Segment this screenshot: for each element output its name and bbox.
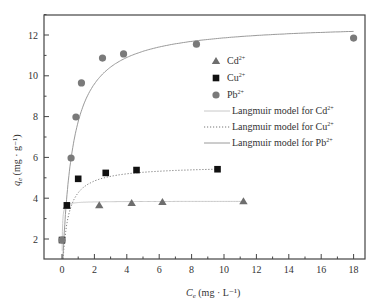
circle-marker <box>193 41 200 48</box>
y-tick-label: 10 <box>28 70 38 81</box>
square-marker <box>75 176 82 183</box>
legend-marker-swatch <box>212 91 219 98</box>
y-tick-label: 8 <box>33 111 38 122</box>
circle-marker <box>120 50 127 57</box>
circle-marker <box>72 113 79 120</box>
x-tick-label: 6 <box>157 264 162 275</box>
legend-label: Langmuir model for Cd2+ <box>232 105 334 116</box>
y-tick-label: 12 <box>28 30 38 41</box>
square-marker <box>133 167 140 174</box>
x-tick-label: 12 <box>251 264 261 275</box>
square-marker <box>102 170 109 177</box>
y-tick-label: 4 <box>33 193 38 204</box>
langmuir-isotherm-chart: 024681012141618 24681012 Ce (mg · L⁻¹) q… <box>0 0 378 306</box>
legend-label: Langmuir model for Pb2+ <box>232 137 333 148</box>
circle-marker <box>99 54 106 61</box>
x-tick-label: 0 <box>60 264 65 275</box>
x-tick-label: 2 <box>92 264 97 275</box>
x-tick-label: 8 <box>189 264 194 275</box>
x-tick-label: 16 <box>316 264 326 275</box>
x-tick-label: 14 <box>284 264 294 275</box>
x-tick-label: 10 <box>219 264 229 275</box>
square-marker <box>214 166 221 173</box>
circle-marker <box>350 34 357 41</box>
circle-marker <box>58 236 65 243</box>
background <box>0 0 378 306</box>
legend-marker-swatch <box>213 75 220 82</box>
square-marker <box>64 202 71 209</box>
x-tick-label: 4 <box>124 264 129 275</box>
y-tick-label: 2 <box>33 234 38 245</box>
circle-marker <box>67 154 74 161</box>
y-tick-label: 6 <box>33 152 38 163</box>
legend-label: Langmuir model for Cu2+ <box>232 121 334 132</box>
circle-marker <box>78 79 85 86</box>
x-tick-label: 18 <box>349 264 359 275</box>
